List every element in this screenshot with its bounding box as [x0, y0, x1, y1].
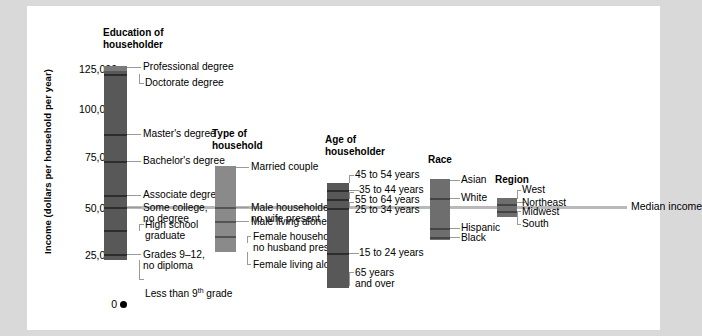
leader-education-somecollege	[127, 207, 141, 208]
cat-age-65-and-over: 65 years and over	[355, 267, 395, 289]
cat-region-west: West	[522, 184, 545, 195]
leader-region-south	[517, 224, 521, 225]
leader-education-associate	[127, 195, 141, 196]
bar-household[interactable]	[215, 166, 236, 252]
seg-education-highschool	[104, 230, 127, 232]
leader-age-15-24	[349, 253, 359, 254]
leader-education-doctorate	[139, 83, 144, 84]
chart-canvas: Income (dollars per household per year) …	[27, 6, 660, 330]
leader-region-west	[517, 190, 521, 191]
cat-region-midwest: Midwest	[522, 206, 559, 217]
seg-education-masters	[104, 134, 127, 136]
leader-household-female-alone-v	[247, 252, 248, 264]
cat-education-professional-degree: Professional degree	[143, 61, 234, 72]
leader-education-professional	[127, 67, 141, 68]
leader-education-less9	[139, 279, 144, 280]
leader-education-highschool	[139, 224, 144, 225]
cat-household-married-couple: Married couple	[251, 161, 318, 172]
leader-age-45-54-v	[349, 175, 350, 183]
seg-race-hispanic	[430, 228, 450, 230]
leader-age-65	[349, 272, 354, 273]
y-tick-dot	[120, 301, 127, 308]
group-title-age: Age of householder	[325, 134, 385, 157]
cat-education-doctorate-degree: Doctorate degree	[145, 77, 224, 88]
group-title-race: Race	[428, 154, 452, 166]
seg-region-northeast	[497, 204, 517, 206]
leader-age-35-44	[349, 190, 359, 191]
cat-education-bachelors-degree: Bachelor's degree	[143, 155, 225, 166]
cat-race-black: Black	[461, 232, 486, 243]
seg-household-female-householder	[215, 236, 236, 238]
seg-household-male-householder	[215, 207, 236, 209]
leader-education-masters	[127, 134, 141, 135]
leader-age-55-64	[349, 192, 354, 193]
cat-education-high-school-graduate: High school graduate	[145, 219, 198, 241]
median-income-label: Median income	[631, 200, 702, 212]
leader-race-hispanic	[450, 228, 460, 229]
bar-region[interactable]	[497, 198, 517, 217]
bar-education-cap	[104, 66, 127, 71]
leader-region-south-v	[517, 217, 518, 224]
group-title-household: Type of household	[212, 128, 263, 151]
seg-age-25-34	[327, 208, 349, 210]
seg-age-35-44	[327, 190, 349, 192]
leader-household-female-alone	[247, 264, 251, 265]
cat-education-less-than-9th-grade-a: Less than 9	[145, 288, 198, 299]
seg-region-midwest	[497, 211, 517, 213]
seg-education-somecollege	[104, 207, 127, 209]
leader-age-25-34	[349, 202, 354, 203]
cat-education-less-than-9th-grade: Less than 9th grade	[145, 274, 232, 299]
seg-age-55-64	[327, 199, 349, 201]
cat-education-grades-9-12: Grades 9–12, no diploma	[143, 249, 205, 271]
seg-household-male-alone	[215, 221, 236, 223]
leader-household-male-householder	[236, 207, 249, 208]
cat-age-15-24: 15 to 24 years	[359, 247, 424, 258]
leader-education-less9-v	[139, 260, 140, 279]
leader-region-west-v	[517, 190, 518, 199]
leader-age-45-54	[349, 175, 354, 176]
cat-education-less-than-9th-grade-c: grade	[204, 288, 233, 299]
cat-age-25-34: 25 to 34 years	[355, 204, 420, 215]
cat-region-south: South	[522, 218, 549, 229]
seg-race-black	[430, 237, 450, 239]
leader-education-grades912	[127, 254, 141, 255]
seg-race-white	[430, 198, 450, 200]
cat-race-white: White	[461, 192, 487, 203]
leader-age-65-v	[349, 272, 350, 286]
seg-education-associate	[104, 195, 127, 197]
leader-race-white	[450, 198, 460, 199]
leader-education-bachelors	[127, 161, 141, 162]
leader-household-female-householder	[247, 236, 251, 237]
cat-education-masters-degree: Master's degree	[143, 128, 216, 139]
cat-education-associate-degree: Associate degree	[143, 189, 222, 200]
y-tick-0-label: 0	[111, 298, 117, 310]
leader-race-black	[450, 237, 460, 238]
bar-race[interactable]	[430, 179, 450, 240]
seg-education-grades912	[104, 254, 127, 256]
leader-education-doctorate-v	[139, 74, 140, 83]
group-title-education: Education of householder	[103, 27, 164, 50]
leader-region-midwest	[517, 211, 521, 212]
seg-education-bachelors	[104, 161, 127, 163]
leader-household-married	[236, 167, 249, 168]
leader-household-male-alone	[236, 221, 249, 222]
seg-age-15-24	[327, 253, 349, 255]
y-tick-0: 0	[41, 297, 127, 310]
cat-age-45-54: 45 to 54 years	[355, 169, 420, 180]
seg-education-doctorate	[104, 74, 127, 76]
cat-race-asian: Asian	[461, 174, 486, 185]
cat-household-male-living-alone: Male living alone	[251, 216, 327, 227]
leader-race-asian	[450, 180, 460, 181]
